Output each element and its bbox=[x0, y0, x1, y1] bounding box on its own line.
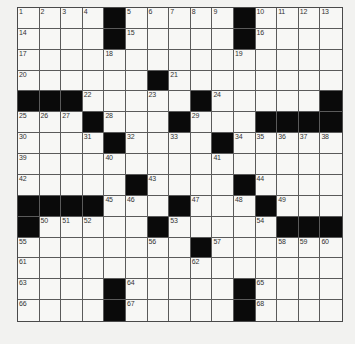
grid-cell[interactable] bbox=[191, 175, 213, 196]
grid-cell[interactable] bbox=[212, 258, 234, 279]
grid-cell[interactable] bbox=[40, 175, 62, 196]
grid-cell[interactable] bbox=[148, 279, 170, 300]
grid-cell[interactable]: 53 bbox=[169, 217, 191, 238]
grid-cell[interactable] bbox=[169, 154, 191, 175]
grid-cell[interactable]: 65 bbox=[256, 279, 278, 300]
grid-cell[interactable] bbox=[83, 175, 105, 196]
grid-cell[interactable] bbox=[299, 154, 321, 175]
grid-cell[interactable]: 42 bbox=[18, 175, 40, 196]
grid-cell[interactable] bbox=[61, 300, 83, 321]
grid-cell[interactable] bbox=[277, 175, 299, 196]
grid-cell[interactable] bbox=[234, 238, 256, 259]
grid-cell[interactable]: 16 bbox=[256, 29, 278, 50]
grid-cell[interactable] bbox=[256, 50, 278, 71]
grid-cell[interactable]: 8 bbox=[191, 8, 213, 29]
grid-cell[interactable]: 54 bbox=[256, 217, 278, 238]
grid-cell[interactable] bbox=[277, 300, 299, 321]
grid-cell[interactable] bbox=[104, 238, 126, 259]
grid-cell[interactable] bbox=[320, 175, 342, 196]
grid-cell[interactable]: 38 bbox=[320, 133, 342, 154]
grid-cell[interactable]: 28 bbox=[104, 112, 126, 133]
grid-cell[interactable] bbox=[277, 279, 299, 300]
grid-cell[interactable] bbox=[277, 71, 299, 92]
grid-cell[interactable] bbox=[148, 50, 170, 71]
grid-cell[interactable]: 37 bbox=[299, 133, 321, 154]
grid-cell[interactable] bbox=[212, 112, 234, 133]
grid-cell[interactable] bbox=[299, 50, 321, 71]
grid-cell[interactable] bbox=[320, 279, 342, 300]
grid-cell[interactable] bbox=[299, 175, 321, 196]
grid-cell[interactable]: 39 bbox=[18, 154, 40, 175]
grid-cell[interactable] bbox=[126, 217, 148, 238]
grid-cell[interactable]: 56 bbox=[148, 238, 170, 259]
grid-cell[interactable]: 45 bbox=[104, 196, 126, 217]
grid-cell[interactable] bbox=[299, 258, 321, 279]
grid-cell[interactable] bbox=[234, 91, 256, 112]
grid-cell[interactable] bbox=[61, 279, 83, 300]
grid-cell[interactable] bbox=[148, 258, 170, 279]
grid-cell[interactable] bbox=[256, 154, 278, 175]
grid-cell[interactable] bbox=[277, 29, 299, 50]
grid-cell[interactable] bbox=[40, 133, 62, 154]
grid-cell[interactable]: 18 bbox=[104, 50, 126, 71]
grid-cell[interactable] bbox=[148, 300, 170, 321]
grid-cell[interactable] bbox=[61, 133, 83, 154]
grid-cell[interactable]: 59 bbox=[299, 238, 321, 259]
grid-cell[interactable]: 26 bbox=[40, 112, 62, 133]
grid-cell[interactable]: 4 bbox=[83, 8, 105, 29]
grid-cell[interactable]: 6 bbox=[148, 8, 170, 29]
grid-cell[interactable] bbox=[212, 279, 234, 300]
grid-cell[interactable]: 48 bbox=[234, 196, 256, 217]
grid-cell[interactable] bbox=[212, 196, 234, 217]
grid-cell[interactable]: 1 bbox=[18, 8, 40, 29]
grid-cell[interactable] bbox=[83, 71, 105, 92]
grid-cell[interactable] bbox=[61, 50, 83, 71]
grid-cell[interactable] bbox=[169, 300, 191, 321]
grid-cell[interactable] bbox=[126, 91, 148, 112]
grid-cell[interactable]: 57 bbox=[212, 238, 234, 259]
grid-cell[interactable] bbox=[148, 196, 170, 217]
grid-cell[interactable]: 66 bbox=[18, 300, 40, 321]
grid-cell[interactable] bbox=[212, 50, 234, 71]
grid-cell[interactable] bbox=[320, 258, 342, 279]
grid-cell[interactable]: 43 bbox=[148, 175, 170, 196]
grid-cell[interactable] bbox=[104, 91, 126, 112]
grid-cell[interactable] bbox=[40, 29, 62, 50]
grid-cell[interactable] bbox=[126, 71, 148, 92]
grid-cell[interactable] bbox=[126, 154, 148, 175]
grid-cell[interactable] bbox=[148, 133, 170, 154]
grid-cell[interactable] bbox=[299, 279, 321, 300]
grid-cell[interactable]: 33 bbox=[169, 133, 191, 154]
grid-cell[interactable] bbox=[320, 300, 342, 321]
grid-cell[interactable] bbox=[126, 238, 148, 259]
grid-cell[interactable] bbox=[234, 112, 256, 133]
grid-cell[interactable]: 64 bbox=[126, 279, 148, 300]
grid-cell[interactable] bbox=[277, 91, 299, 112]
grid-cell[interactable] bbox=[320, 29, 342, 50]
grid-cell[interactable]: 2 bbox=[40, 8, 62, 29]
grid-cell[interactable]: 21 bbox=[169, 71, 191, 92]
grid-cell[interactable] bbox=[148, 154, 170, 175]
grid-cell[interactable] bbox=[169, 279, 191, 300]
grid-cell[interactable]: 36 bbox=[277, 133, 299, 154]
grid-cell[interactable] bbox=[320, 154, 342, 175]
grid-cell[interactable]: 52 bbox=[83, 217, 105, 238]
grid-cell[interactable]: 30 bbox=[18, 133, 40, 154]
grid-cell[interactable]: 31 bbox=[83, 133, 105, 154]
grid-cell[interactable] bbox=[83, 258, 105, 279]
grid-cell[interactable] bbox=[299, 196, 321, 217]
grid-cell[interactable]: 34 bbox=[234, 133, 256, 154]
grid-cell[interactable]: 15 bbox=[126, 29, 148, 50]
grid-cell[interactable]: 60 bbox=[320, 238, 342, 259]
grid-cell[interactable]: 20 bbox=[18, 71, 40, 92]
grid-cell[interactable] bbox=[40, 300, 62, 321]
grid-cell[interactable] bbox=[169, 238, 191, 259]
grid-cell[interactable] bbox=[40, 258, 62, 279]
grid-cell[interactable]: 35 bbox=[256, 133, 278, 154]
grid-cell[interactable]: 40 bbox=[104, 154, 126, 175]
grid-cell[interactable] bbox=[299, 29, 321, 50]
grid-cell[interactable]: 27 bbox=[61, 112, 83, 133]
grid-cell[interactable] bbox=[83, 50, 105, 71]
grid-cell[interactable] bbox=[191, 133, 213, 154]
grid-cell[interactable]: 5 bbox=[126, 8, 148, 29]
